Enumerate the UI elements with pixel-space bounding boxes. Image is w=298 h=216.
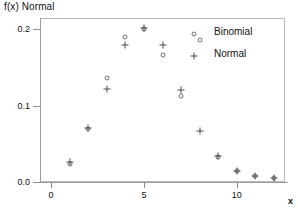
x-axis-label: x (288, 197, 293, 206)
legend-label: Normal (214, 48, 246, 60)
x-axis-tick (51, 182, 52, 188)
x-axis-tick-label: 5 (141, 191, 146, 200)
chart-title: f(x) Normal (4, 1, 55, 13)
plus-icon (190, 52, 198, 60)
legend-marker-glyph (192, 32, 197, 37)
y-axis-tick-label: 0.1 (17, 102, 30, 111)
y-axis-tick (33, 106, 40, 107)
legend-label: Binomial (214, 26, 252, 38)
y-axis-tick (33, 182, 40, 183)
chart-legend: BinomialNormal (190, 24, 282, 68)
x-axis-tick (144, 182, 145, 188)
x-axis-tick-label: 10 (232, 191, 242, 200)
y-axis-tick-label: 0.0 (17, 178, 30, 187)
x-axis-tick-label: 0 (49, 191, 54, 200)
y-axis-tick (33, 29, 40, 30)
x-axis-tick (237, 182, 238, 188)
circle-icon (190, 30, 198, 38)
y-axis-tick-label: 0.2 (17, 25, 30, 34)
chart-container: f(x) Normal 0.00.10.2 0510 x BinomialNor… (0, 0, 298, 216)
legend-item-normal: Normal (190, 46, 282, 68)
x-axis-line (36, 182, 288, 183)
legend-item-binomial: Binomial (190, 24, 282, 46)
legend-marker-glyph (191, 53, 198, 60)
